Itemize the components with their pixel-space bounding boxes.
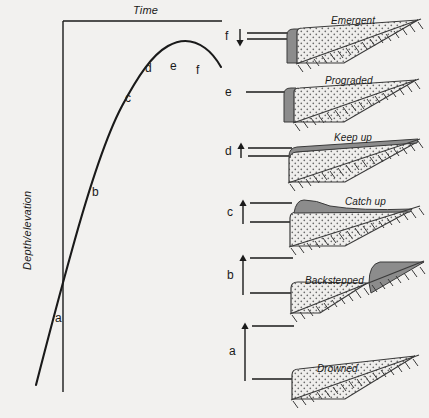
figure-root: Time Depth/elevation a b c d e f f e d c…: [0, 0, 429, 418]
stage-marker-f: [236, 29, 294, 47]
panel-title-catchup: Catch up: [345, 197, 386, 207]
curve-label-d: d: [145, 62, 152, 74]
curve-label-b: b: [92, 186, 99, 198]
stage-label-d: d: [225, 145, 232, 157]
stage-marker-b: [239, 255, 293, 296]
stage-label-e: e: [225, 86, 232, 98]
stage-label-f: f: [225, 30, 228, 42]
curve-label-f: f: [196, 64, 199, 76]
panel-title-backstepped: Backstepped: [305, 276, 364, 286]
x-axis-title: Time: [133, 5, 158, 16]
panel-keepup: [288, 139, 423, 191]
curve-label-e: e: [170, 60, 177, 72]
stage-marker-d: [237, 143, 292, 159]
stage-marker-c: [239, 200, 292, 225]
stage-marker-a: [241, 323, 294, 382]
panel-prograded: [284, 79, 420, 131]
panel-emergent: [287, 19, 423, 72]
panel-title-prograded: Prograded: [325, 76, 373, 86]
carbonate-platform-diagram: [0, 0, 429, 418]
stage-label-b: b: [227, 269, 234, 281]
stage-label-c: c: [227, 206, 233, 218]
panel-backstepped: [290, 261, 425, 322]
panel-title-drowned: Drowned: [317, 364, 358, 374]
stage-label-a: a: [229, 345, 236, 357]
panel-title-keepup: Keep up: [334, 133, 372, 143]
panel-catchup: [289, 200, 424, 255]
curve-label-a: a: [55, 312, 62, 324]
curve-label-c: c: [125, 92, 131, 104]
y-axis-title: Depth/elevation: [22, 191, 33, 270]
panel-title-emergent: Emergent: [331, 16, 375, 26]
